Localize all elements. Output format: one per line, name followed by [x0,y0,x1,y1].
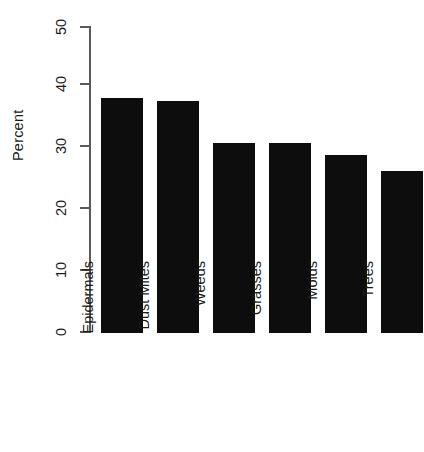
x-label-trees-text: Trees [361,261,375,371]
y-tick-label-20: 20 [44,200,78,216]
y-tick-label-30-text: 30 [53,138,69,154]
y-tick-label-40: 40 [44,76,78,92]
bar-chart: Percent 0 10 20 30 40 50 Epidermals Dust… [0,0,424,452]
y-tick-mark-30 [80,145,90,147]
x-label-epidermals-text: Epidermals [81,261,95,371]
y-tick-label-30: 30 [44,138,78,154]
y-tick-label-0: 0 [44,324,78,340]
y-tick-label-50-text: 50 [53,19,69,35]
y-tick-label-10: 10 [44,262,78,278]
x-axis-labels: Epidermals Dust Mites Weeds Grasses Mold… [91,337,424,452]
x-label-weeds-text: Weeds [193,261,207,371]
x-label-grasses-text: Grasses [249,261,263,371]
y-tick-label-0-text: 0 [53,328,69,336]
y-tick-label-50: 50 [44,19,78,35]
y-tick-mark-50 [80,26,90,28]
y-axis-title: Percent [10,61,36,161]
y-tick-mark-40 [80,83,90,85]
y-tick-mark-20 [80,207,90,209]
bar-trees [381,171,423,333]
x-label-trees: Trees [381,343,423,357]
x-label-molds-text: Molds [305,261,319,371]
y-tick-label-10-text: 10 [53,262,69,278]
y-tick-label-40-text: 40 [53,76,69,92]
y-tick-label-20-text: 20 [53,200,69,216]
x-label-dust-mites-text: Dust Mites [137,261,151,371]
